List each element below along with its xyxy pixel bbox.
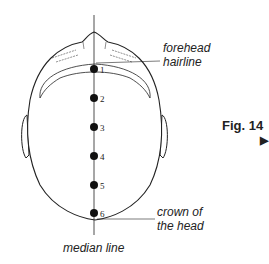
crown-label-2: the head — [157, 220, 204, 233]
forehead-label: forehead — [163, 42, 210, 55]
svg-text:2: 2 — [100, 94, 105, 104]
svg-text:6: 6 — [100, 209, 105, 219]
median-line-label: median line — [63, 242, 124, 255]
arrow-icon: ▶ — [260, 134, 268, 147]
svg-text:1: 1 — [100, 65, 105, 75]
svg-text:4: 4 — [100, 152, 105, 162]
svg-text:5: 5 — [100, 181, 105, 191]
head-diagram: 1 2 3 4 5 6 forehead hairline crown of t… — [0, 0, 269, 264]
hairline-label: hairline — [163, 56, 202, 69]
svg-text:3: 3 — [100, 123, 105, 133]
crown-label-1: crown of — [157, 206, 202, 219]
figure-label: Fig. 14 — [222, 118, 263, 133]
